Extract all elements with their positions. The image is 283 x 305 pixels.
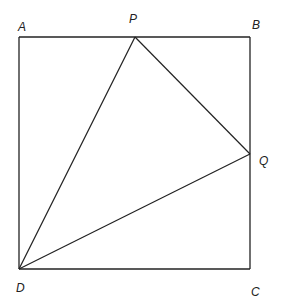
label-b: B [252,18,260,32]
label-q: Q [259,154,268,168]
segment-qd [19,154,250,269]
segment-pq [135,37,250,154]
square-abcd [19,37,250,269]
triangle-dpq [19,37,250,269]
label-p: P [129,12,137,26]
geometry-diagram: A P B Q D C [0,0,283,305]
segment-dp [19,37,135,269]
label-c: C [251,285,260,299]
label-d: D [16,281,25,295]
vertex-labels: A P B Q D C [16,12,268,299]
label-a: A [17,20,26,34]
